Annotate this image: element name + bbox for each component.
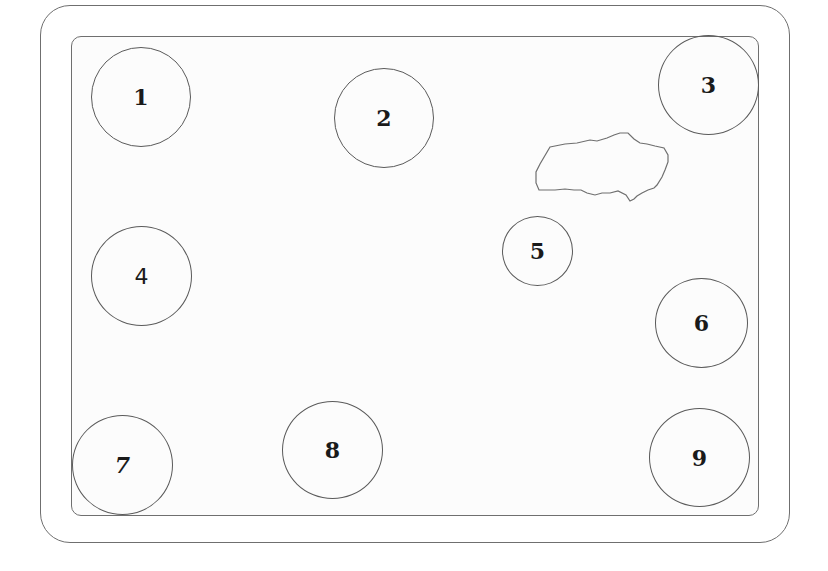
circle-6: 6 xyxy=(655,278,748,368)
circle-label: 2 xyxy=(376,105,391,131)
circle-label: 8 xyxy=(325,437,340,463)
circle-label: 4 xyxy=(135,264,149,289)
circle-5: 5 xyxy=(502,216,573,286)
circle-9: 9 xyxy=(649,408,750,507)
circle-label: 6 xyxy=(694,310,709,336)
circle-4: 4 xyxy=(91,226,192,326)
circle-label: 7 xyxy=(115,452,130,478)
circle-8: 8 xyxy=(282,401,383,499)
circle-label: 9 xyxy=(692,445,707,471)
circle-1: 1 xyxy=(91,47,191,147)
circle-7: 7 xyxy=(72,415,173,515)
circle-label: 3 xyxy=(701,72,716,98)
circle-label: 5 xyxy=(530,238,545,264)
circle-3: 3 xyxy=(658,35,759,135)
circle-2: 2 xyxy=(334,68,434,168)
circle-label: 1 xyxy=(133,84,148,110)
